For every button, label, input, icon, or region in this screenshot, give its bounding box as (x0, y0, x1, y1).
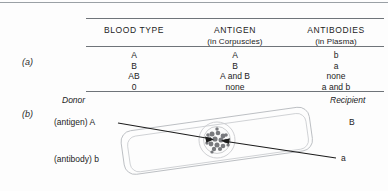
table-column-antibodies: ANTIBODIES (in Plasma) b a none a and b (288, 18, 384, 47)
table-cells-antibodies: b a none a and b (288, 50, 384, 92)
table-cells-antigen: A B A and B none (182, 50, 288, 92)
table-cell: none (288, 71, 384, 82)
column-header-antibodies: ANTIBODIES (288, 18, 384, 36)
recipient-title: Recipient (330, 95, 365, 105)
table-cells-blood-type: A B AB 0 (86, 50, 182, 92)
recipient-antigen-label: B (349, 117, 355, 127)
table-cell: B (86, 61, 182, 72)
table-cell: A (86, 50, 182, 61)
table-cell: A and B (182, 71, 288, 82)
table-column-antigen: ANTIGEN (in Corpuscles) A B A and B none (182, 18, 288, 47)
table-cell: B (182, 61, 288, 72)
table-cell: A (182, 50, 288, 61)
column-header-blood-type: BLOOD TYPE (86, 18, 182, 36)
table-cell: AB (86, 71, 182, 82)
column-header-antigen: ANTIGEN (182, 18, 288, 36)
page-top-border (0, 2, 388, 3)
table-cell: b (288, 50, 384, 61)
column-subheader-spacer (86, 36, 182, 47)
column-subheader-antigen: (in Corpuscles) (182, 36, 288, 47)
table-cell: none (182, 82, 288, 93)
table-cell: a and b (288, 82, 384, 93)
antibody-arrow-icon (221, 138, 336, 158)
donor-title: Donor (62, 95, 85, 105)
table-cell: 0 (86, 82, 182, 93)
blood-type-table: BLOOD TYPE A B AB 0 ANTIGEN (in Corpuscl… (86, 18, 384, 92)
diagram-graphics (0, 92, 388, 191)
figure-page: (a) (b) BLOOD TYPE A B AB 0 ANTIGEN (in … (0, 0, 388, 191)
part-a-label: (a) (22, 57, 33, 67)
donor-antibody-label: (antibody) b (54, 154, 99, 164)
transfusion-diagram: Donor Recipient (antigen) A (antibody) b… (0, 92, 388, 191)
table-cell: a (288, 61, 384, 72)
recipient-antibody-label: a (341, 153, 346, 163)
donor-antigen-label: (antigen) A (54, 117, 95, 127)
column-subheader-antibodies: (in Plasma) (288, 36, 384, 47)
table-column-blood-type: BLOOD TYPE A B AB 0 (86, 18, 182, 47)
